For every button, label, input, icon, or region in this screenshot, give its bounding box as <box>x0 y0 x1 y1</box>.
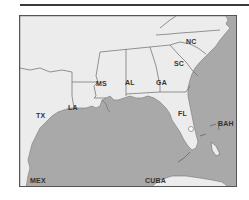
label-ga: GA <box>156 79 167 86</box>
label-la: LA <box>68 104 78 111</box>
top-rule <box>20 4 249 6</box>
label-al: AL <box>125 79 135 86</box>
label-cuba: CUBA <box>145 177 166 184</box>
label-sc: SC <box>174 60 184 67</box>
lake-okeechobee <box>189 127 194 132</box>
map-frame: NC SC GA AL MS LA TX FL BAH MEX CUBA <box>19 15 237 187</box>
label-bah: BAH <box>218 120 234 127</box>
label-ms: MS <box>96 80 107 87</box>
label-nc: NC <box>186 38 197 45</box>
label-tx: TX <box>36 112 45 119</box>
map-svg <box>20 16 237 187</box>
label-mex: MEX <box>30 177 46 184</box>
label-fl: FL <box>178 110 187 117</box>
